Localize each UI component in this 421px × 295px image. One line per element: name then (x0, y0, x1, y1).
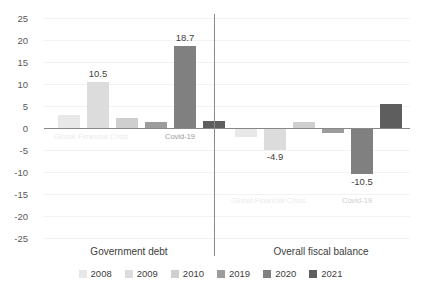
bar-government-debt-2009[interactable] (87, 82, 109, 128)
group-title-government-debt: Government debt (44, 246, 214, 257)
legend-label-2019: 2019 (229, 268, 250, 279)
annotation-covid-overall-fiscal-balance: Covid-19 (342, 196, 372, 205)
gridline-20 (44, 40, 410, 41)
bar-overall-fiscal-balance-2021[interactable] (380, 104, 402, 128)
ytick-20: 20 (0, 35, 28, 46)
legend-item-2020[interactable]: 2020 (263, 268, 296, 279)
data-label-government-debt-2009: 10.5 (75, 68, 121, 79)
annotation-gfc-overall-fiscal-balance: Global Financial Crisis (231, 196, 306, 205)
ytick-0: 0 (0, 123, 28, 134)
legend-label-2008: 2008 (91, 268, 112, 279)
gridline-minus15 (44, 194, 410, 195)
legend-swatch-2020 (263, 270, 271, 278)
legend-item-2019[interactable]: 2019 (217, 268, 250, 279)
gridline-minus20 (44, 216, 410, 217)
legend-swatch-2021 (309, 270, 317, 278)
ytick-5: 5 (0, 101, 28, 112)
ytick-minus5: -5 (0, 145, 28, 156)
bar-overall-fiscal-balance-2008[interactable] (235, 128, 257, 137)
bar-overall-fiscal-balance-2020[interactable] (351, 128, 373, 174)
data-label-overall-fiscal-balance-2020: -10.5 (339, 176, 385, 187)
gridline-15 (44, 62, 410, 63)
legend-item-2009[interactable]: 2009 (125, 268, 158, 279)
ytick-10: 10 (0, 79, 28, 90)
data-label-government-debt-2020: 18.7 (162, 32, 208, 43)
legend-swatch-2019 (217, 270, 225, 278)
legend-label-2009: 2009 (137, 268, 158, 279)
bar-overall-fiscal-balance-2009[interactable] (264, 128, 286, 150)
ytick-minus10: -10 (0, 167, 28, 178)
legend-label-2021: 2021 (321, 268, 342, 279)
legend-label-2020: 2020 (275, 268, 296, 279)
legend-item-2008[interactable]: 2008 (79, 268, 112, 279)
plot-area: 25 20 15 10 5 0 -5 -10 -15 -20 -25 10.5 … (44, 12, 410, 244)
legend: 2008 2009 2010 2019 2020 2021 (0, 268, 421, 279)
gridline-zero (44, 128, 410, 129)
ytick-25: 25 (0, 13, 28, 24)
data-label-overall-fiscal-balance-2009: -4.9 (252, 151, 298, 162)
ytick-minus20: -20 (0, 211, 28, 222)
panel-divider (214, 14, 215, 256)
legend-label-2010: 2010 (183, 268, 204, 279)
bar-chart: 25 20 15 10 5 0 -5 -10 -15 -20 -25 10.5 … (0, 0, 421, 295)
ytick-minus15: -15 (0, 189, 28, 200)
annotation-gfc-government-debt: Global Financial Crisis (54, 132, 129, 141)
legend-swatch-2010 (171, 270, 179, 278)
bar-government-debt-2020[interactable] (174, 46, 196, 128)
annotation-covid-government-debt: Covid-19 (165, 132, 195, 141)
ytick-minus25: -25 (0, 233, 28, 244)
ytick-15: 15 (0, 57, 28, 68)
group-title-overall-fiscal-balance: Overall fiscal balance (232, 246, 410, 257)
gridline-25 (44, 18, 410, 19)
gridline-minus25 (44, 238, 410, 239)
bar-government-debt-2008[interactable] (58, 115, 80, 128)
legend-swatch-2009 (125, 270, 133, 278)
legend-item-2010[interactable]: 2010 (171, 268, 204, 279)
bar-government-debt-2010[interactable] (116, 118, 138, 128)
legend-swatch-2008 (79, 270, 87, 278)
legend-item-2021[interactable]: 2021 (309, 268, 342, 279)
